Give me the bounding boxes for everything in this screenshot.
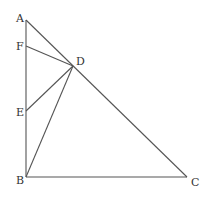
segment-ED bbox=[26, 66, 73, 111]
label-C: C bbox=[191, 176, 199, 189]
segment-FD bbox=[26, 46, 73, 66]
label-B: B bbox=[16, 174, 24, 187]
geometry-diagram: A F D E B C bbox=[0, 0, 210, 200]
label-D: D bbox=[76, 55, 85, 68]
label-E: E bbox=[16, 106, 24, 119]
segment-BD bbox=[26, 66, 73, 177]
label-F: F bbox=[16, 40, 24, 53]
label-A: A bbox=[15, 12, 25, 25]
segment-AC bbox=[26, 20, 187, 177]
